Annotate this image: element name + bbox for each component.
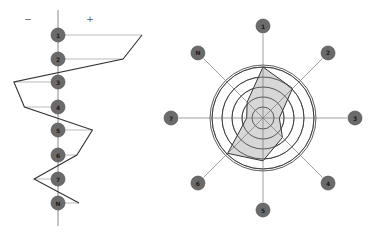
profile-node-7[interactable]: 7 (51, 172, 65, 186)
profile-node-6[interactable]: 6 (51, 148, 65, 162)
radar-node-6[interactable]: 6 (191, 176, 205, 190)
profile-node-5[interactable]: 5 (51, 123, 65, 137)
radar-node-2[interactable]: 2 (321, 46, 335, 60)
svg-text:5: 5 (261, 207, 265, 214)
svg-text:N: N (55, 200, 60, 207)
svg-text:3: 3 (56, 79, 60, 86)
svg-text:1: 1 (261, 23, 265, 30)
radar-node-7[interactable]: 7 (164, 111, 178, 125)
svg-text:6: 6 (56, 152, 60, 159)
profile-node-3[interactable]: 3 (51, 75, 65, 89)
plus-label: + (86, 14, 94, 24)
profile-line (14, 35, 142, 203)
profile-node-1[interactable]: 1 (51, 28, 65, 42)
profile-chart: −+1234567N (14, 10, 142, 226)
svg-text:4: 4 (326, 180, 330, 187)
radar-chart: 1234567N (164, 19, 362, 217)
minus-label: − (24, 14, 32, 24)
radar-node-4[interactable]: 4 (321, 176, 335, 190)
svg-text:N: N (195, 49, 200, 56)
svg-text:2: 2 (56, 56, 60, 63)
svg-text:4: 4 (56, 104, 60, 111)
radar-node-5[interactable]: 5 (256, 203, 270, 217)
radar-node-3[interactable]: 3 (348, 111, 362, 125)
radar-node-1[interactable]: 1 (256, 19, 270, 33)
svg-text:3: 3 (353, 115, 357, 122)
svg-text:7: 7 (169, 115, 173, 122)
profile-node-4[interactable]: 4 (51, 100, 65, 114)
radar-area (228, 67, 293, 161)
svg-text:2: 2 (326, 49, 330, 56)
profile-node-2[interactable]: 2 (51, 52, 65, 66)
svg-text:7: 7 (56, 176, 60, 183)
svg-text:1: 1 (56, 32, 60, 39)
svg-text:5: 5 (56, 127, 60, 134)
profile-node-n[interactable]: N (51, 196, 65, 210)
diagram-canvas: −+1234567N 1234567N (0, 0, 374, 235)
radar-node-n[interactable]: N (191, 46, 205, 60)
svg-text:6: 6 (196, 180, 200, 187)
